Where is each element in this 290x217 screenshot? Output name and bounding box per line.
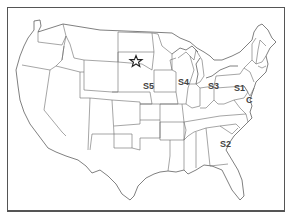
label-s3: S3 — [208, 81, 219, 91]
label-s2: S2 — [220, 139, 231, 149]
us-map: S1 C S2 S3 S4 S5 — [0, 0, 290, 217]
label-s1: S1 — [234, 83, 245, 93]
star-icon — [130, 56, 142, 67]
us-outline — [16, 20, 276, 200]
label-c: C — [246, 95, 253, 105]
label-s4: S4 — [178, 77, 189, 87]
state-borders-west — [22, 24, 160, 150]
label-s5: S5 — [143, 81, 154, 91]
